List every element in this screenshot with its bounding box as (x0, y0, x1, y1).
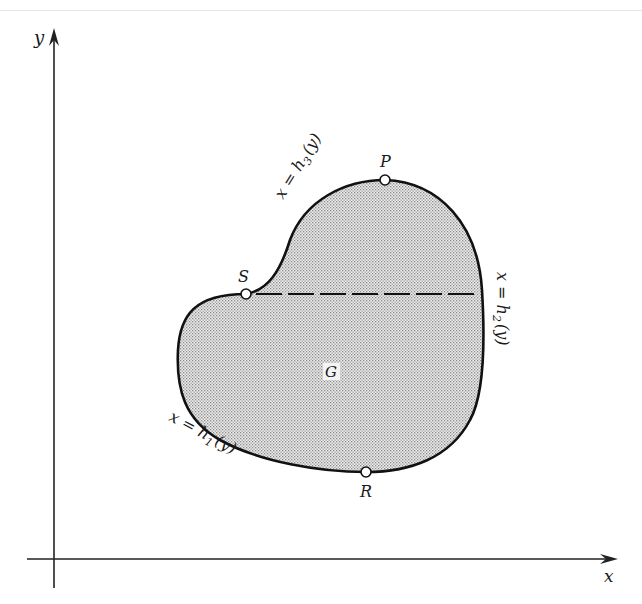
curve-label-h2-suffix: (y) (493, 324, 512, 346)
region-diagram: y x P S R G x = h3(y) x = h2(y) x = h1(y… (0, 0, 642, 604)
svg-text:x = h3(y): x = h3(y) (270, 130, 328, 204)
point-r (361, 467, 371, 477)
curve-label-h2: x = h2(y) (490, 272, 512, 345)
y-axis (49, 28, 59, 588)
curve-label-h2-sub: 2 (490, 314, 503, 322)
point-p (380, 175, 390, 185)
svg-text:x = h2(y): x = h2(y) (490, 272, 512, 345)
x-axis (27, 554, 618, 564)
region-label: G (325, 363, 337, 381)
x-axis-label: x (604, 566, 614, 586)
point-r-label: R (359, 482, 372, 501)
curve-label-h3: x = h3(y) (270, 130, 328, 204)
point-p-label: P (379, 152, 391, 171)
point-s (241, 289, 251, 299)
point-s-label: S (238, 267, 249, 286)
region-g (178, 180, 484, 472)
curve-label-h2-prefix: x = h (493, 272, 512, 315)
curve-label-h3-suffix: (y) (298, 130, 326, 158)
y-axis-label: y (33, 27, 45, 48)
